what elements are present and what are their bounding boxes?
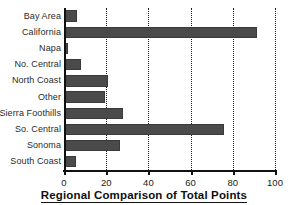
- x-tick-label: 60: [185, 177, 196, 188]
- category-label: So. Central: [15, 125, 61, 134]
- category-axis-labels: Bay Area California Napa No. Central Nor…: [0, 8, 61, 170]
- x-tick-label: 40: [143, 177, 154, 188]
- category-label: Other: [38, 93, 61, 102]
- bar: [64, 124, 224, 135]
- bar-row: [64, 105, 275, 121]
- category-label-row: California: [0, 24, 61, 40]
- bar: [64, 59, 81, 70]
- x-axis-tick: [106, 170, 108, 175]
- chart-title-text: Regional Comparison of Total Points: [41, 189, 247, 203]
- category-label: Sierra Foothills: [0, 109, 61, 118]
- category-label: South Coast: [10, 157, 61, 166]
- bar-row: [64, 121, 275, 137]
- plot-area: [64, 8, 275, 170]
- category-label-row: South Coast: [0, 154, 61, 170]
- category-label-row: North Coast: [0, 73, 61, 89]
- bar: [64, 27, 257, 38]
- category-label-row: Other: [0, 89, 61, 105]
- bar: [64, 91, 105, 102]
- category-label-row: Napa: [0, 40, 61, 56]
- category-label-row: Bay Area: [0, 8, 61, 24]
- x-axis-line: [63, 170, 276, 172]
- bar-row: [64, 24, 275, 40]
- x-axis-tick: [64, 170, 66, 175]
- bar-row: [64, 57, 275, 73]
- category-label: Bay Area: [24, 12, 61, 21]
- category-label: California: [22, 28, 61, 37]
- category-label: No. Central: [14, 60, 61, 69]
- bar-row: [64, 154, 275, 170]
- category-label: Sonoma: [27, 141, 61, 150]
- x-tick-label: 0: [61, 177, 66, 188]
- y-axis-line: [64, 8, 66, 171]
- category-label-row: Sonoma: [0, 138, 61, 154]
- bar: [64, 75, 108, 86]
- x-tick-label: 80: [228, 177, 239, 188]
- x-axis-tick: [233, 170, 235, 175]
- category-label-row: So. Central: [0, 121, 61, 137]
- x-axis-tick: [191, 170, 193, 175]
- x-axis-tick: [275, 170, 277, 175]
- x-tick-label: 20: [101, 177, 112, 188]
- bar-row: [64, 73, 275, 89]
- bar: [64, 140, 120, 151]
- bar-row: [64, 40, 275, 56]
- x-tick-label: 100: [267, 177, 283, 188]
- bar: [64, 108, 123, 119]
- chart-title: Regional Comparison of Total Points: [0, 189, 288, 201]
- bar-row: [64, 8, 275, 24]
- x-axis-tick: [148, 170, 150, 175]
- bar-row: [64, 138, 275, 154]
- category-label: North Coast: [12, 76, 61, 85]
- category-label-row: No. Central: [0, 57, 61, 73]
- gridline: [275, 8, 276, 170]
- category-label-row: Sierra Foothills: [0, 105, 61, 121]
- bar-row: [64, 89, 275, 105]
- category-label: Napa: [39, 44, 61, 53]
- bar-chart: Bay Area California Napa No. Central Nor…: [0, 0, 288, 205]
